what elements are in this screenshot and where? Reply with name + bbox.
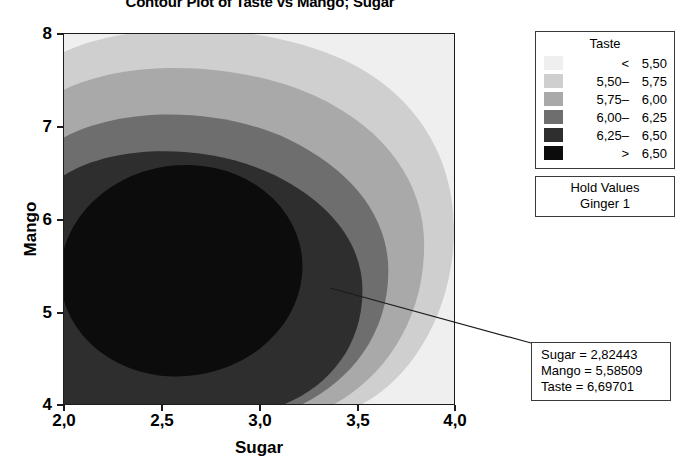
legend-item: 5,75 – 6,00 [536, 90, 674, 108]
y-tick-label-5: 5 [22, 303, 52, 323]
legend-range-low: 5,50 [570, 74, 622, 89]
legend-swatch-icon [544, 56, 563, 70]
legend-title: Taste [536, 36, 674, 51]
hold-values-row: Ginger 1 [536, 196, 674, 211]
legend-operator: < [621, 56, 629, 71]
contour-plot-screenshot: Contour Plot of Taste vs Mango; Sugar [0, 0, 688, 476]
legend-swatch-icon [544, 146, 563, 160]
x-tick-label-1: 2,5 [150, 411, 174, 431]
legend-swatch-icon [544, 92, 563, 106]
y-axis-title: Mango [21, 184, 41, 274]
y-tick-8 [57, 33, 63, 35]
contour-bands [64, 34, 454, 404]
x-tick-label-3: 3,5 [346, 411, 370, 431]
legend-item: < 5,50 [536, 54, 674, 72]
legend-range-high: 5,75 [629, 74, 667, 89]
annotation-callout: Sugar = 2,82443 Mango = 5,58509 Taste = … [531, 342, 671, 401]
plot-area[interactable] [63, 33, 455, 405]
legend-item: 6,00 – 6,25 [536, 108, 674, 126]
legend-swatch-icon [544, 74, 563, 88]
legend-swatch-icon [544, 110, 563, 124]
legend: Taste < 5,50 5,50 – 5,75 5,75 – 6,00 [535, 31, 675, 169]
legend-operator: > [621, 146, 629, 161]
legend-operator: – [622, 110, 629, 125]
y-tick-5 [57, 312, 63, 314]
legend-item: > 6,50 [536, 144, 674, 162]
x-axis-title: Sugar [63, 438, 455, 458]
legend-range-high: 6,50 [629, 128, 667, 143]
hold-values-panel: Hold Values Ginger 1 [535, 176, 675, 217]
annotation-mango: Mango = 5,58509 [541, 363, 670, 379]
y-tick-7 [57, 126, 63, 128]
legend-range-low: 6,00 [570, 110, 622, 125]
legend-operator: – [622, 92, 629, 107]
y-tick-6 [57, 219, 63, 221]
legend-range-high: 6,00 [629, 92, 667, 107]
y-tick-label-8: 8 [22, 24, 52, 44]
legend-range-low: 5,75 [570, 92, 622, 107]
legend-item: 5,50 – 5,75 [536, 72, 674, 90]
page-title: Contour Plot of Taste vs Mango; Sugar [0, 0, 520, 10]
x-tick-label-4: 4,0 [443, 411, 467, 431]
hold-values-title: Hold Values [536, 180, 674, 195]
legend-range-high: 6,25 [629, 110, 667, 125]
legend-operator: – [622, 128, 629, 143]
legend-range-high: 5,50 [629, 56, 667, 71]
y-tick-label-4: 4 [22, 395, 52, 415]
legend-range-high: 6,50 [629, 146, 667, 161]
x-tick-label-0: 2,0 [52, 411, 76, 431]
y-tick-4 [57, 404, 63, 406]
legend-swatch-icon [544, 128, 563, 142]
annotation-taste: Taste = 6,69701 [541, 379, 670, 395]
legend-item: 6,25 – 6,50 [536, 126, 674, 144]
legend-operator: – [622, 74, 629, 89]
y-tick-label-7: 7 [22, 117, 52, 137]
annotation-sugar: Sugar = 2,82443 [541, 347, 670, 363]
legend-range-low: 6,25 [570, 128, 622, 143]
x-tick-label-2: 3,0 [248, 411, 272, 431]
